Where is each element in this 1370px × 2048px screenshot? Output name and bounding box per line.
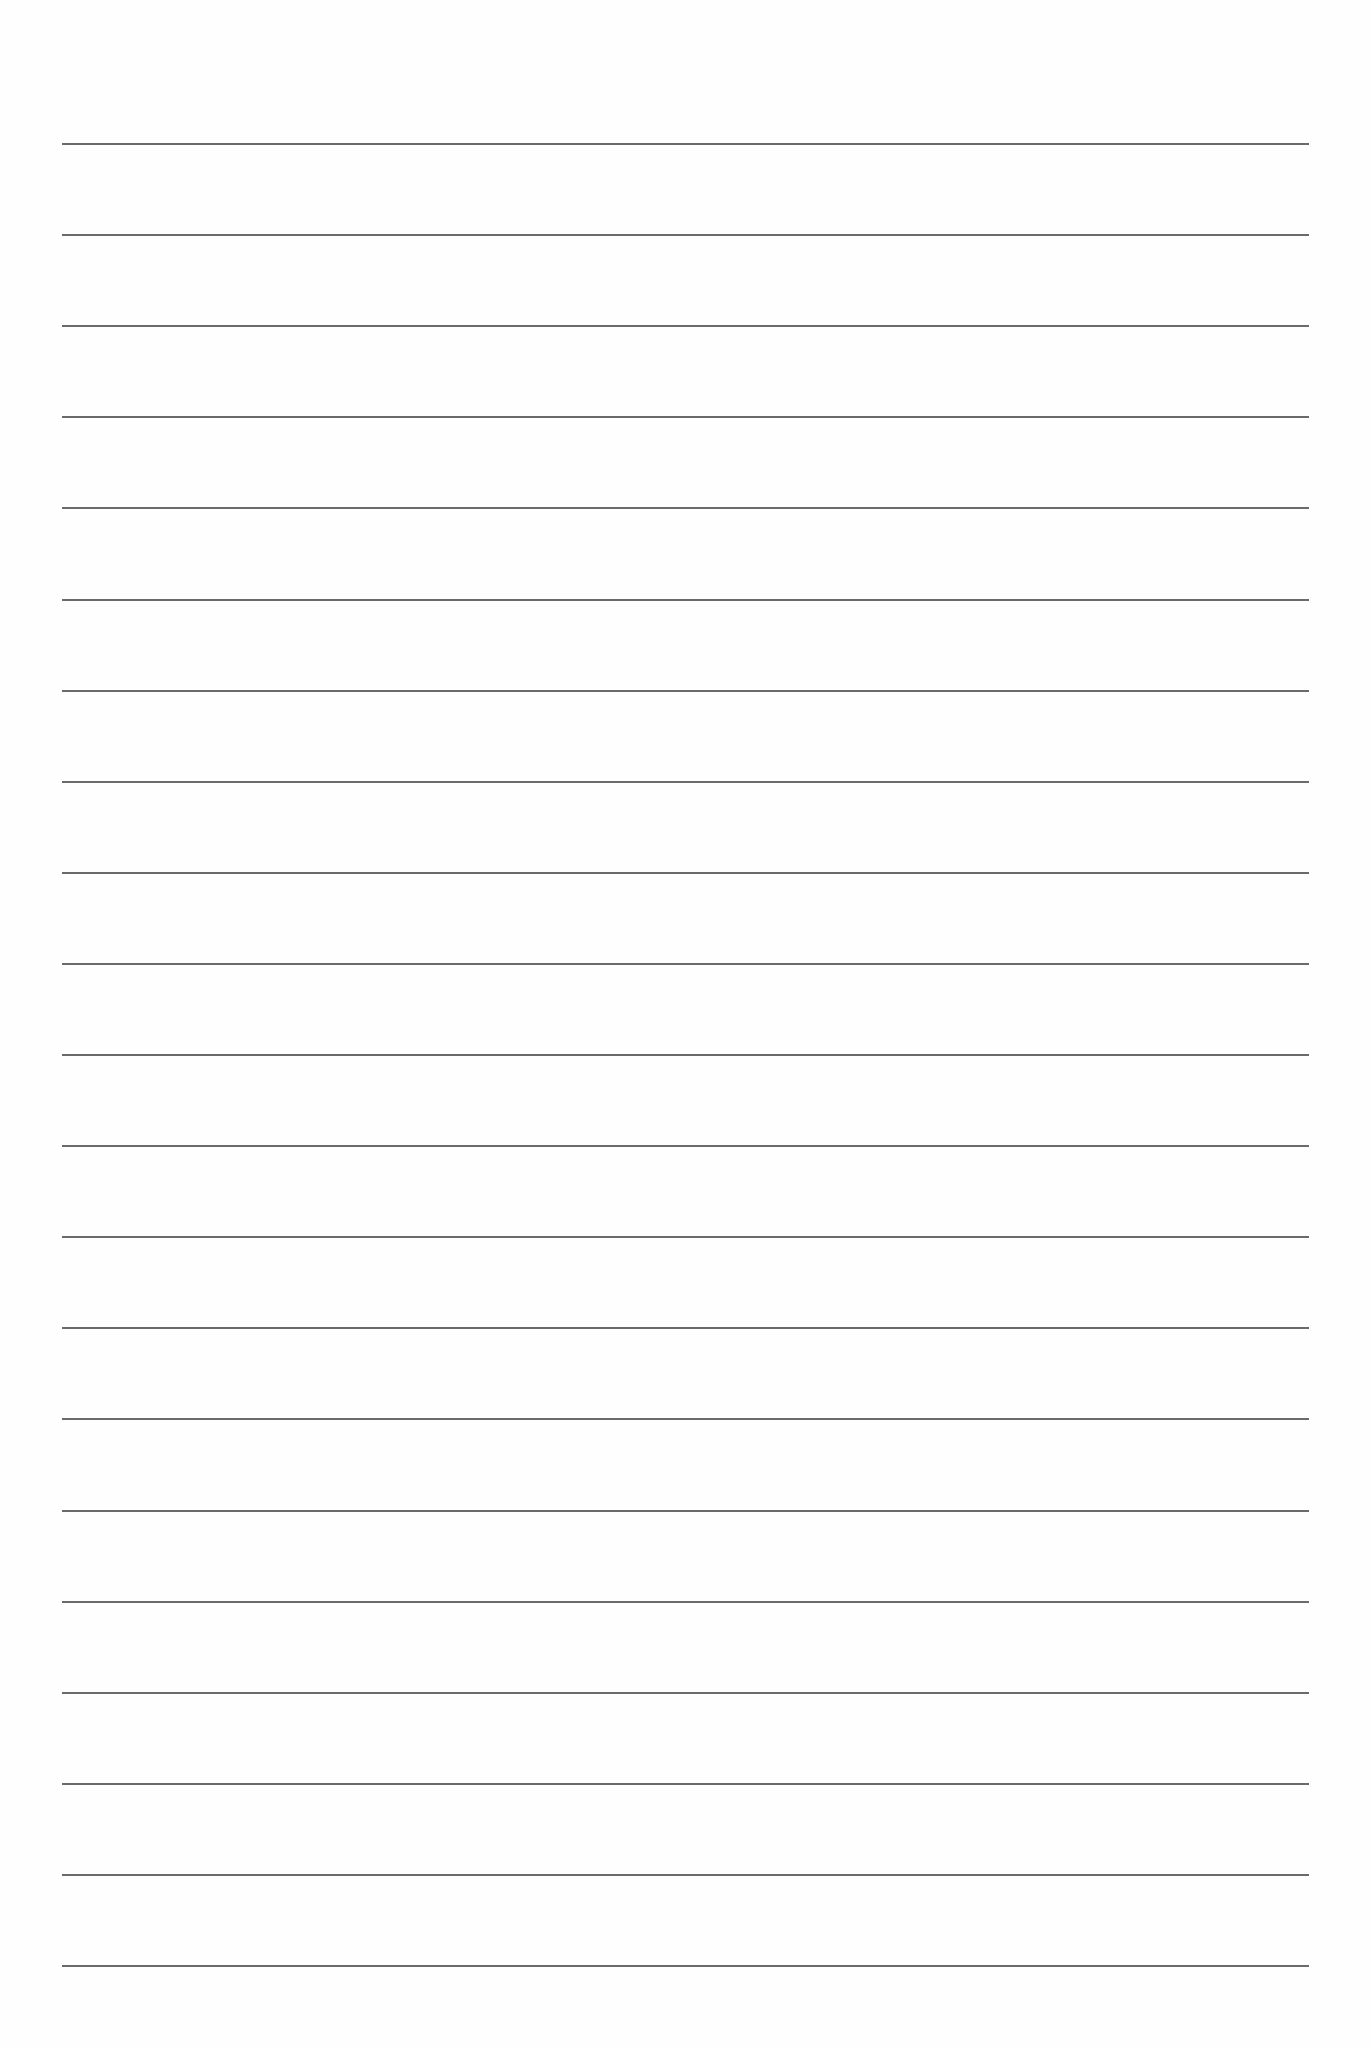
lined-paper-page bbox=[0, 0, 1370, 2048]
ruled-line bbox=[62, 1692, 1309, 1694]
ruled-line bbox=[62, 781, 1309, 783]
ruled-line bbox=[62, 872, 1309, 874]
ruled-line bbox=[62, 416, 1309, 418]
ruled-line bbox=[62, 599, 1309, 601]
ruled-line bbox=[62, 507, 1309, 509]
ruled-line bbox=[62, 1418, 1309, 1420]
ruled-line bbox=[62, 234, 1309, 236]
ruled-line bbox=[62, 143, 1309, 145]
ruled-line bbox=[62, 1965, 1309, 1967]
ruled-line bbox=[62, 1327, 1309, 1329]
ruled-line bbox=[62, 1783, 1309, 1785]
ruled-line bbox=[62, 1601, 1309, 1603]
ruled-line bbox=[62, 1510, 1309, 1512]
ruled-line bbox=[62, 963, 1309, 965]
ruled-line bbox=[62, 1054, 1309, 1056]
ruled-line bbox=[62, 1236, 1309, 1238]
ruled-line bbox=[62, 690, 1309, 692]
ruled-line bbox=[62, 1874, 1309, 1876]
ruled-line bbox=[62, 1145, 1309, 1147]
ruled-line bbox=[62, 325, 1309, 327]
